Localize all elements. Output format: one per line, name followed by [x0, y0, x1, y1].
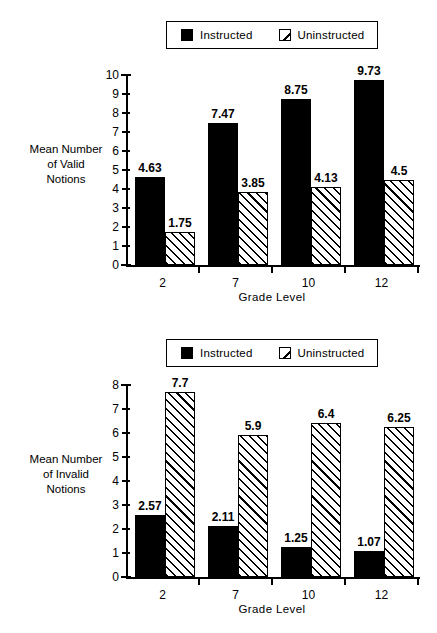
- bar-uninstructed: [165, 232, 195, 265]
- legend-invalid: InstructedUninstructed: [166, 339, 378, 367]
- y-tick: [121, 264, 131, 266]
- y-tick-label: 3: [112, 499, 119, 511]
- y-tick: [122, 188, 130, 190]
- y-tick: [122, 245, 130, 247]
- legend-item-uninstructed: Uninstructed: [279, 29, 365, 41]
- y-tick-label: 7: [112, 403, 119, 415]
- bar-value-label: 1.25: [284, 532, 307, 544]
- legend-label: Uninstructed: [298, 29, 365, 41]
- y-tick-label: 8: [112, 379, 119, 391]
- y-tick: [122, 150, 130, 152]
- bar-instructed: [208, 123, 238, 265]
- y-tick: [121, 74, 131, 76]
- y-tick-label: 0: [112, 259, 119, 271]
- x-tick: [417, 266, 419, 273]
- y-tick: [122, 480, 130, 482]
- bar-uninstructed: [238, 192, 268, 265]
- x-tick-label: 2: [159, 277, 166, 289]
- y-axis-line: [126, 385, 128, 579]
- chart-valid-notions: InstructedUninstructed 01234567891024.63…: [0, 0, 437, 320]
- bar-value-label: 2.57: [138, 500, 161, 512]
- y-tick-label: 7: [112, 126, 119, 138]
- y-tick-label: 8: [112, 107, 119, 119]
- y-tick: [122, 226, 130, 228]
- x-axis-title-valid: Grade Level: [238, 291, 305, 303]
- bar-value-label: 2.11: [212, 511, 235, 523]
- y-tick-label: 5: [112, 164, 119, 176]
- y-tick: [121, 384, 131, 386]
- y-tick-label: 2: [112, 221, 119, 233]
- diagonal-hatch-square-icon: [279, 347, 291, 359]
- diagonal-hatch-square-icon: [279, 29, 291, 41]
- bar-uninstructed: [311, 423, 341, 577]
- bar-value-label: 5.9: [245, 420, 262, 432]
- bar-value-label: 7.47: [211, 108, 234, 120]
- y-tick: [122, 528, 130, 530]
- bar-value-label: 9.73: [357, 65, 380, 77]
- y-tick-label: 5: [112, 451, 119, 463]
- y-tick: [122, 112, 130, 114]
- x-tick: [271, 266, 273, 273]
- x-axis-line: [126, 265, 420, 267]
- y-axis-line: [126, 75, 128, 267]
- x-axis-title-invalid: Grade Level: [238, 603, 305, 615]
- y-tick: [122, 207, 130, 209]
- bar-value-label: 1.75: [168, 217, 191, 229]
- bar-instructed: [281, 99, 311, 265]
- y-tick-label: 0: [112, 571, 119, 583]
- y-axis-title-line-1: of Valid: [24, 157, 108, 172]
- solid-square-icon: [181, 29, 193, 41]
- bar-uninstructed: [384, 427, 414, 577]
- y-tick: [121, 576, 131, 578]
- legend-valid: InstructedUninstructed: [166, 21, 378, 49]
- legend-item-instructed: Instructed: [181, 347, 253, 359]
- x-tick-label: 12: [375, 589, 388, 601]
- legend-label: Instructed: [200, 29, 253, 41]
- y-tick: [122, 432, 130, 434]
- bar-instructed: [208, 526, 238, 577]
- y-tick-label: 1: [112, 240, 119, 252]
- bar-uninstructed: [238, 435, 268, 577]
- y-tick: [122, 408, 130, 410]
- bar-value-label: 3.85: [241, 177, 264, 189]
- legend-label: Instructed: [200, 347, 253, 359]
- y-tick-label: 2: [112, 523, 119, 535]
- bar-value-label: 8.75: [284, 84, 307, 96]
- y-tick-label: 6: [112, 427, 119, 439]
- x-tick-label: 12: [375, 277, 388, 289]
- plot-area-invalid: 01234567822.577.772.115.9101.256.4121.07…: [126, 385, 418, 577]
- y-tick-label: 4: [112, 183, 119, 195]
- bar-instructed: [281, 547, 311, 577]
- bar-uninstructed: [165, 392, 195, 577]
- bar-value-label: 6.4: [318, 408, 335, 420]
- bar-instructed: [135, 177, 165, 265]
- x-tick-label: 7: [232, 277, 239, 289]
- y-tick-label: 1: [112, 547, 119, 559]
- plot-area-valid: 01234567891024.631.7577.473.85108.754.13…: [126, 75, 418, 265]
- bar-value-label: 6.25: [387, 412, 410, 424]
- x-tick: [198, 578, 200, 585]
- x-tick-label: 7: [232, 589, 239, 601]
- x-tick: [198, 266, 200, 273]
- bar-instructed: [354, 80, 384, 265]
- bar-value-label: 1.07: [357, 536, 380, 548]
- y-axis-title-line-2: Notions: [24, 172, 108, 187]
- y-tick-label: 3: [112, 202, 119, 214]
- y-axis-title-line-0: Mean Number: [24, 452, 108, 467]
- x-tick-label: 10: [302, 277, 315, 289]
- bar-value-label: 4.63: [138, 162, 161, 174]
- legend-label: Uninstructed: [298, 347, 365, 359]
- chart-invalid-notions: InstructedUninstructed 01234567822.577.7…: [0, 320, 437, 633]
- bar-value-label: 7.7: [172, 377, 189, 389]
- y-axis-title-line-2: Notions: [24, 482, 108, 497]
- y-tick: [122, 93, 130, 95]
- y-tick: [122, 169, 130, 171]
- y-axis-title-line-0: Mean Number: [24, 142, 108, 157]
- bar-value-label: 4.5: [391, 165, 408, 177]
- x-tick-label: 2: [159, 589, 166, 601]
- x-tick: [271, 578, 273, 585]
- y-tick: [122, 504, 130, 506]
- y-tick: [122, 131, 130, 133]
- x-axis-line: [126, 577, 420, 579]
- y-tick: [122, 552, 130, 554]
